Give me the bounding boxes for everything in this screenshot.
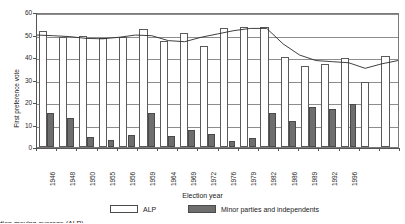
chart-container: 0102030405060 First preference vote 1946… (0, 0, 405, 223)
bar-alp (200, 46, 208, 147)
x-tick-mark (258, 148, 259, 151)
x-tick-mark (218, 148, 219, 151)
bar-group (279, 14, 299, 147)
x-tick-mark (56, 148, 57, 151)
bar-alp (119, 37, 127, 147)
y-tick-mark (33, 81, 36, 82)
bar-alp (341, 58, 349, 147)
legend-item-moving-average: two election moving average (ALP) (0, 217, 84, 223)
x-tick-mark (379, 148, 380, 151)
x-tick-mark (177, 148, 178, 151)
x-tick-label: 1946 (49, 146, 56, 186)
white-bar-swatch-icon (110, 205, 138, 213)
bar-group (360, 14, 380, 147)
plot-area (36, 13, 399, 148)
y-axis-title: First preference vote (13, 39, 20, 159)
x-tick-mark (36, 148, 37, 151)
legend-item-minor: Minor parties and independents (188, 203, 319, 215)
y-axis-line (36, 13, 37, 148)
x-tick-label: 1969 (190, 146, 197, 186)
x-tick-label: 1976 (230, 146, 237, 186)
legend-label-minor: Minor parties and independents (221, 206, 319, 213)
x-tick-mark (339, 148, 340, 151)
bar-group (178, 14, 198, 147)
bar-alp (301, 66, 309, 147)
y-tick-label: 50 (4, 32, 32, 39)
y-tick-mark (33, 126, 36, 127)
x-tick-mark (117, 148, 118, 151)
bar-alp (39, 31, 47, 147)
bar-alp (139, 29, 147, 147)
bar-group (37, 14, 57, 147)
bar-minor (67, 118, 74, 147)
bar-minor (309, 107, 316, 148)
bar-group (239, 14, 259, 147)
chart-legend: ALP Minor parties and independents two e… (0, 203, 405, 217)
bar-alp (79, 36, 87, 147)
bar-minor (188, 130, 195, 147)
bar-minor (47, 113, 54, 147)
x-tick-mark (298, 148, 299, 151)
bar-group (77, 14, 97, 147)
x-tick-mark (359, 148, 360, 151)
x-tick-label: 1996 (351, 146, 358, 186)
y-tick-label: 60 (4, 9, 32, 16)
x-tick-label: 1972 (210, 146, 217, 186)
bar-minor (350, 104, 357, 147)
bar-alp (99, 38, 107, 147)
y-tick-mark (33, 13, 36, 14)
bar-group (299, 14, 319, 147)
bar-group (98, 14, 118, 147)
x-tick-mark (399, 148, 400, 151)
bar-group (319, 14, 339, 147)
x-tick-mark (157, 148, 158, 151)
bar-minor (329, 109, 336, 147)
bar-group (380, 14, 400, 147)
legend-label-moving-average: two election moving average (ALP) (0, 220, 84, 224)
bar-alp (180, 33, 188, 147)
bar-alp (240, 27, 248, 147)
plot-top-border (36, 13, 399, 14)
y-axis-title-wrapper: First preference vote (8, 45, 20, 125)
bar-group (259, 14, 279, 147)
y-tick-mark (33, 58, 36, 59)
legend-item-alp: ALP (110, 203, 156, 215)
x-tick-mark (278, 148, 279, 151)
x-tick-mark (137, 148, 138, 151)
y-tick-mark (33, 36, 36, 37)
x-tick-label: 1979 (250, 146, 257, 186)
x-tick-label: 1955 (109, 146, 116, 186)
x-tick-label: 1950 (89, 146, 96, 186)
bar-group (158, 14, 178, 147)
bar-alp (220, 28, 228, 147)
bar-alp (160, 41, 168, 147)
legend-label-alp: ALP (143, 206, 156, 213)
bar-minor (208, 134, 215, 148)
x-tick-label: 1948 (69, 146, 76, 186)
gray-bar-swatch-icon (188, 205, 216, 213)
x-tick-label: 1956 (129, 146, 136, 186)
bar-group (118, 14, 138, 147)
x-tick-label: 1989 (311, 146, 318, 186)
bar-group (340, 14, 360, 147)
x-tick-label: 1986 (291, 146, 298, 186)
x-axis-title: Election year (0, 192, 405, 199)
x-tick-mark (238, 148, 239, 151)
bar-minor (148, 113, 155, 147)
bar-group (57, 14, 77, 147)
x-tick-label: 1964 (170, 146, 177, 186)
bar-group (219, 14, 239, 147)
bar-minor (289, 121, 296, 147)
x-tick-mark (197, 148, 198, 151)
bar-alp (381, 56, 389, 147)
x-tick-mark (97, 148, 98, 151)
x-tick-mark (318, 148, 319, 151)
bar-alp (361, 82, 369, 147)
y-tick-mark (33, 103, 36, 104)
x-tick-label: 1982 (270, 146, 277, 186)
bar-alp (281, 57, 289, 147)
bar-group (198, 14, 218, 147)
bar-alp (260, 27, 268, 147)
bar-alp (59, 37, 67, 147)
bar-alp (321, 64, 329, 147)
